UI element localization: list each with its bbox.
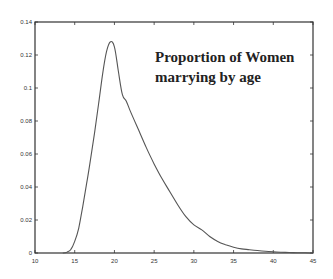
y-tick-label: 0.08 <box>20 118 32 124</box>
y-tick-label: 0 <box>29 250 33 256</box>
x-tick-label: 45 <box>310 258 317 264</box>
x-tick-label: 20 <box>111 258 118 264</box>
x-tick-label: 15 <box>71 258 78 264</box>
x-tick-label: 25 <box>151 258 158 264</box>
y-tick-label: 0.14 <box>20 19 32 25</box>
y-tick-label: 0.06 <box>20 151 32 157</box>
line-chart: 00.020.040.060.080.10.120.14 10152025303… <box>0 0 333 279</box>
x-tick-label: 30 <box>191 258 198 264</box>
y-tick-label: 0.12 <box>20 52 32 58</box>
y-tick-label: 0.1 <box>24 85 33 91</box>
chart-title-line-1: Proportion of Women <box>155 49 295 65</box>
chart-title-line-2: marrying by age <box>155 69 261 85</box>
y-tick-label: 0.02 <box>20 217 32 223</box>
x-tick-label: 40 <box>270 258 277 264</box>
x-tick-label: 35 <box>230 258 237 264</box>
y-tick-label: 0.04 <box>20 184 32 190</box>
x-tick-label: 10 <box>32 258 39 264</box>
